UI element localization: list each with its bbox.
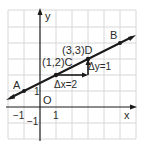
y-tick-pos: 1 — [34, 86, 40, 97]
y-tick-neg: −1 — [27, 116, 39, 127]
point-a — [22, 89, 26, 93]
point-c — [54, 73, 58, 77]
x-tick-neg: −1 — [13, 110, 25, 121]
x-tick-pos: 1 — [53, 110, 59, 121]
delta-x-arrow-icon — [82, 73, 88, 78]
coordinate-diagram: y x O −1 1 1 −1 A B (1,2)C (3,3)D Δx=2 Δ… — [0, 0, 144, 148]
point-b — [118, 41, 122, 45]
line-arrow-right-icon — [128, 35, 136, 41]
label-a: A — [13, 79, 21, 91]
label-d: (3,3)D — [62, 44, 93, 56]
y-axis-label: y — [45, 10, 51, 22]
delta-x-label: Δx=2 — [54, 79, 78, 90]
y-axis-arrow-icon — [38, 8, 43, 15]
origin-label: O — [43, 94, 52, 106]
delta-y-label: Δy=1 — [88, 61, 112, 72]
x-axis-label: x — [124, 109, 130, 121]
line-arrow-left-icon — [6, 94, 15, 100]
label-b: B — [110, 29, 117, 41]
label-c: (1,2)C — [42, 56, 73, 68]
